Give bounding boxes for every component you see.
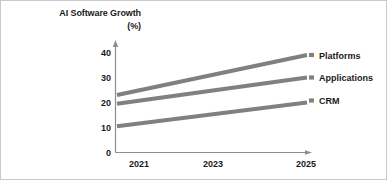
series-label-crm: CRM xyxy=(319,96,340,106)
chart-figure: AI Software Growth (%) 0 10 20 30 40 202… xyxy=(0,0,387,180)
series-line-crm xyxy=(117,103,307,127)
x-tick-label-2025: 2025 xyxy=(296,159,316,169)
y-axis-arrow xyxy=(113,40,118,47)
x-tick-label-2023: 2023 xyxy=(203,159,223,169)
y-tick-label-10: 10 xyxy=(101,123,111,133)
series-label-platforms: Platforms xyxy=(319,51,361,61)
x-axis-arrow xyxy=(305,150,312,155)
line-chart-plot: 0 10 20 30 40 2021 2023 2025 Platforms A… xyxy=(1,1,387,180)
y-tick-label-0: 0 xyxy=(106,148,111,158)
y-tick-label-30: 30 xyxy=(101,73,111,83)
y-tick-label-40: 40 xyxy=(101,48,111,58)
series-label-applications: Applications xyxy=(319,73,373,83)
y-tick-label-20: 20 xyxy=(101,98,111,108)
x-tick-label-2021: 2021 xyxy=(129,159,149,169)
